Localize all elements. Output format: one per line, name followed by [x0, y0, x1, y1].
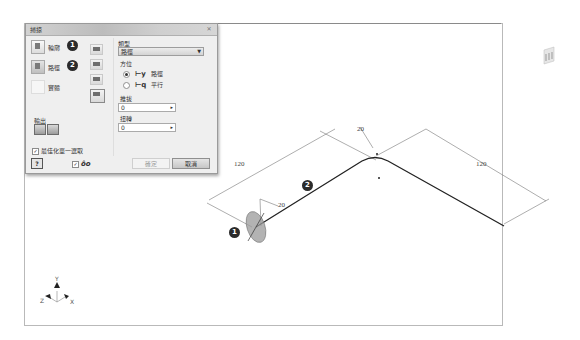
profile-label: 輪廓 — [48, 43, 60, 52]
surface-output-icon[interactable] — [47, 124, 59, 135]
solid-output-icon[interactable] — [34, 124, 46, 135]
optimize-label: 最佳化單一選取 — [41, 147, 83, 154]
solid-select-icon[interactable] — [31, 80, 45, 94]
cut-icon[interactable] — [90, 59, 103, 70]
taper-input[interactable]: 0 ▸ — [118, 103, 176, 112]
twist-label: 扭轉 — [120, 114, 132, 123]
twist-value: 0 — [121, 124, 125, 131]
path-label: 路徑 — [48, 63, 60, 72]
orientation-parallel-option[interactable]: ⊢q 平行 — [123, 80, 163, 89]
solid-label: 實體 — [48, 83, 60, 92]
help-button[interactable]: ? — [31, 158, 43, 169]
intersect-icon[interactable] — [90, 74, 103, 85]
parallel-orientation-icon: ⊢q — [135, 81, 146, 89]
solid-selector[interactable]: 實體 — [31, 80, 91, 100]
path-orientation-icon: ⊢y — [135, 70, 146, 78]
profile-badge: 1 — [67, 40, 78, 51]
viewcube-icon[interactable] — [542, 46, 556, 66]
orientation-path-label: 路徑 — [151, 70, 163, 77]
axis-x-label: X — [70, 298, 74, 305]
join-icon[interactable] — [90, 44, 103, 55]
optimize-single-selection[interactable]: ✓ 最佳化單一選取 — [32, 146, 83, 155]
twist-input[interactable]: 0 ▸ — [118, 123, 176, 132]
callout-profile: 1 — [229, 227, 240, 238]
orientation-parallel-label: 平行 — [151, 81, 163, 88]
axis-y-label: Y — [55, 275, 59, 282]
dialog-titlebar[interactable]: 掃掠 ✕ — [26, 24, 217, 36]
axis-triad — [45, 282, 69, 302]
type-value: 路徑 — [121, 48, 133, 55]
dialog-title: 掃掠 — [30, 25, 42, 34]
cancel-button[interactable]: 取消 — [172, 158, 210, 169]
profile-select-icon[interactable] — [31, 40, 45, 54]
dimension-bend-radius[interactable]: 20 — [357, 125, 364, 133]
path-select-icon[interactable] — [31, 60, 45, 74]
preview-toggle[interactable]: ✓ ôo — [72, 160, 91, 168]
profile-selector[interactable]: 輪廓 1 — [31, 40, 91, 60]
new-solid-icon[interactable] — [90, 89, 105, 103]
type-dropdown[interactable]: 路徑 ▼ — [118, 47, 204, 56]
preview-checkbox[interactable]: ✓ — [72, 161, 79, 168]
close-icon[interactable]: ✕ — [205, 25, 213, 32]
axis-z-label: Z — [40, 297, 44, 304]
path-badge: 2 — [67, 60, 78, 71]
taper-label: 推拔 — [120, 94, 132, 103]
taper-value: 0 — [121, 104, 125, 111]
extension-line — [207, 203, 252, 227]
ok-button[interactable]: 確定 — [132, 158, 170, 169]
dropdown-arrow-icon: ▼ — [197, 48, 201, 55]
orientation-label: 方位 — [120, 59, 132, 68]
spin-arrow-icon[interactable]: ▸ — [170, 104, 173, 111]
optimize-checkbox[interactable]: ✓ — [32, 148, 39, 155]
spin-arrow-icon[interactable]: ▸ — [170, 124, 173, 131]
radio-path[interactable] — [123, 71, 130, 78]
callout-path: 2 — [302, 180, 313, 191]
dimension-left-length[interactable]: 120 — [234, 160, 245, 168]
radio-parallel[interactable] — [123, 82, 130, 89]
dimension-right-length[interactable]: 120 — [476, 160, 487, 168]
path-selector[interactable]: 路徑 2 — [31, 60, 91, 80]
sweep-dialog: 掃掠 ✕ 輪廓 1 路徑 2 實體 輸出 ✓ 最佳化單一選取 類型 — [25, 23, 218, 174]
preview-glasses-icon: ôo — [81, 160, 91, 168]
orientation-path-option[interactable]: ⊢y 路徑 — [123, 69, 163, 78]
dimension-profile-radius[interactable]: 20 — [278, 201, 285, 209]
